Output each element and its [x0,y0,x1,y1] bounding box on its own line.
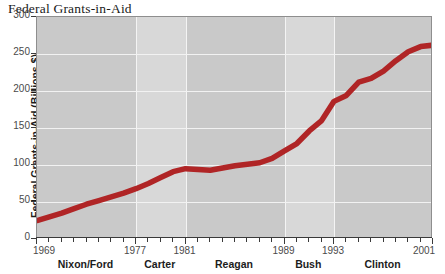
x-axis-tick [407,238,408,242]
x-axis-year-label: 2001 [413,245,435,256]
x-axis-tick [345,238,346,242]
x-axis-tick [209,238,210,242]
x-axis-tick [308,238,309,242]
x-axis-tick [98,238,99,242]
y-axis-tick [31,164,36,165]
series-line [37,17,432,238]
x-axis-tick [284,238,285,244]
x-axis-tick [86,238,87,242]
y-axis-label: 150 [4,120,30,131]
x-axis-tick [420,238,421,242]
x-axis-tick [135,238,136,244]
administration-label-carter: Carter [144,258,175,270]
administration-label-reagan: Reagan [215,258,253,270]
y-axis-label: 100 [4,157,30,168]
y-axis-tick [31,201,36,202]
x-axis-tick [48,238,49,242]
y-axis-label: 200 [4,83,30,94]
x-axis-tick [110,238,111,242]
x-axis-tick [259,238,260,242]
x-axis-year-label: 1993 [322,245,344,256]
x-axis-tick [123,238,124,242]
x-axis-year-label: 1989 [272,245,294,256]
x-axis-tick [395,238,396,242]
x-axis-tick [160,238,161,242]
x-axis-tick [197,238,198,242]
x-axis-tick [432,238,433,244]
x-axis-tick [333,238,334,244]
administration-label-bush: Bush [295,258,321,270]
y-axis-tick [31,90,36,91]
y-axis-tick [31,127,36,128]
x-axis-tick [296,238,297,242]
x-axis-tick [370,238,371,242]
y-axis-label: 0 [4,231,30,242]
x-axis-tick [172,238,173,242]
x-axis-tick [147,238,148,242]
x-axis-tick [185,238,186,244]
x-axis-year-label: 1981 [173,245,195,256]
y-axis-label: 50 [4,194,30,205]
x-axis-tick [358,238,359,242]
x-axis-tick [73,238,74,242]
x-axis-tick [383,238,384,242]
plot-area [36,16,432,238]
y-axis-label: 300 [4,9,30,20]
x-axis-tick [36,238,37,244]
x-axis-year-label: 1969 [33,245,55,256]
administration-label-nixon-ford: Nixon/Ford [58,258,113,270]
x-axis-tick [222,238,223,242]
x-axis-tick [61,238,62,242]
administration-label-clinton: Clinton [364,258,400,270]
x-axis-tick [271,238,272,242]
x-axis-tick [321,238,322,242]
x-axis-tick [234,238,235,242]
y-axis-tick [31,53,36,54]
x-axis-tick [246,238,247,242]
y-axis-label: 250 [4,46,30,57]
y-axis-tick [31,16,36,17]
x-axis-year-label: 1977 [124,245,146,256]
chart-page: Federal Grants-in-Aid Federal Grants-in-… [0,0,445,274]
